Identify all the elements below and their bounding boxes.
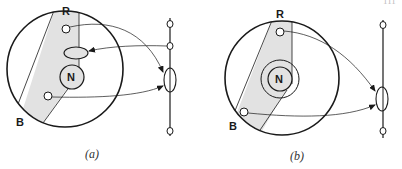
arrow-r-to-axis-b xyxy=(284,31,375,91)
label-n-a: N xyxy=(67,71,75,83)
r-marker-a xyxy=(62,25,70,33)
label-b-b: B xyxy=(229,120,237,132)
r-marker-b xyxy=(276,28,284,36)
b-marker-b xyxy=(240,108,248,116)
label-r-a: R xyxy=(62,5,70,17)
b-marker-a xyxy=(44,92,52,100)
label-n-b: N xyxy=(275,73,283,85)
page-number: 111 xyxy=(383,0,396,6)
panel-b: N R B (b) xyxy=(225,8,388,163)
diagram-canvas: 111 N R B xyxy=(0,0,402,169)
panel-a: N R B (a) xyxy=(7,5,176,161)
arrow-axis-to-ellipse-a xyxy=(89,46,167,51)
label-r-b: R xyxy=(276,8,284,20)
caption-b: (b) xyxy=(290,149,304,163)
axis-ellipse-b xyxy=(376,87,388,111)
figure: 111 N R B xyxy=(0,0,402,169)
inner-ellipse-a xyxy=(64,47,88,59)
label-b-a: B xyxy=(16,116,24,128)
caption-a: (a) xyxy=(85,147,99,161)
